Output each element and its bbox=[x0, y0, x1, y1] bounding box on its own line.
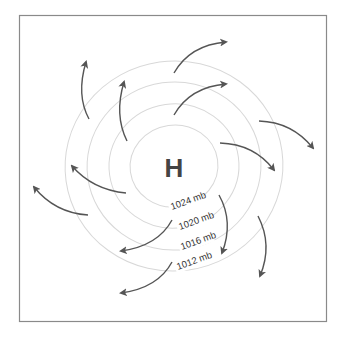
high-pressure-symbol: H bbox=[165, 153, 184, 183]
anticyclone-diagram: 1024 mb 1020 mb 1016 mb 1012 mb H bbox=[0, 0, 342, 337]
